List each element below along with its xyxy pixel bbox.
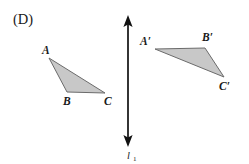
vertex-label-a-prime: A′ <box>139 35 151 47</box>
figure-canvas: (D) A B C l 1 A′ B′ C′ <box>0 0 249 164</box>
vertex-label-c-prime: C′ <box>219 80 230 92</box>
vertex-label-a: A <box>41 44 50 56</box>
vertex-label-c: C <box>104 95 112 107</box>
triangle-a-prime-b-prime-c-prime <box>155 48 224 77</box>
part-label: (D) <box>13 11 33 28</box>
mirror-line-label-subscript: 1 <box>133 155 137 163</box>
pre-image-triangle-group: A B C <box>41 44 112 107</box>
vertex-label-b: B <box>62 95 71 107</box>
triangle-abc <box>49 58 105 93</box>
mirror-line-label: l <box>127 150 130 161</box>
geometry-figure: (D) A B C l 1 A′ B′ C′ <box>0 0 249 164</box>
vertex-label-b-prime: B′ <box>201 31 213 43</box>
mirror-line-group: l 1 <box>123 15 137 163</box>
image-triangle-group: A′ B′ C′ <box>139 31 230 92</box>
